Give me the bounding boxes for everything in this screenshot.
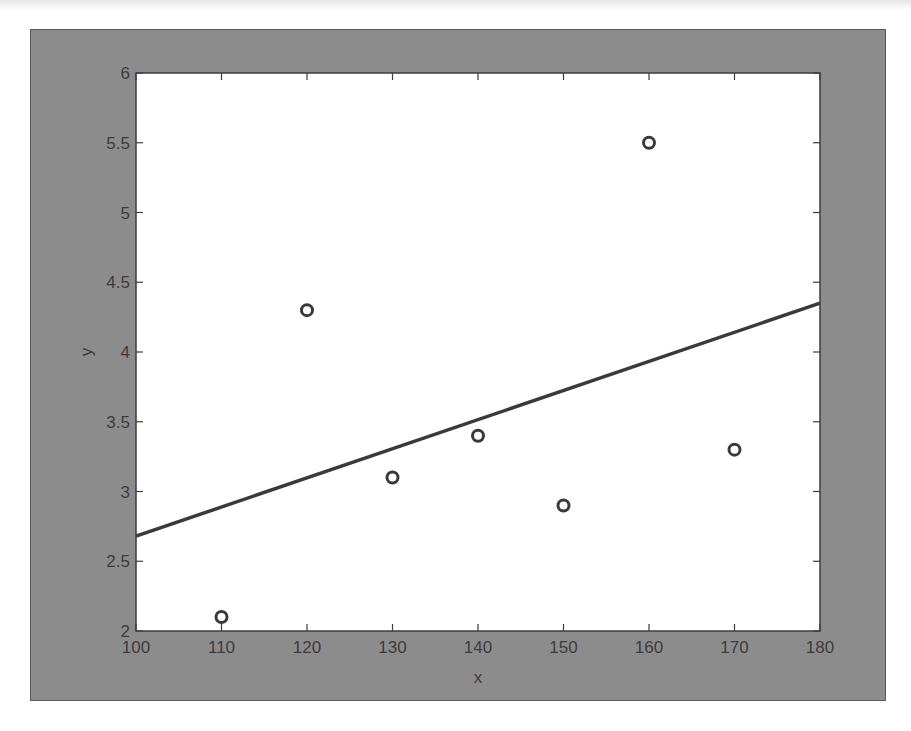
y-tick-label: 3.5 bbox=[106, 413, 130, 432]
scatter-plot: 100110120130140150160170180 22.533.544.5… bbox=[0, 0, 911, 731]
x-tick-labels: 100110120130140150160170180 bbox=[122, 638, 834, 657]
axes-area bbox=[136, 73, 820, 631]
y-tick-label: 2 bbox=[121, 622, 130, 641]
y-axis-label: y bbox=[77, 347, 96, 356]
y-tick-labels: 22.533.544.555.56 bbox=[106, 64, 130, 641]
x-tick-label: 150 bbox=[549, 638, 577, 657]
y-tick-label: 5.5 bbox=[106, 134, 130, 153]
y-tick-label: 4 bbox=[121, 343, 130, 362]
x-tick-label: 180 bbox=[806, 638, 834, 657]
x-tick-label: 170 bbox=[720, 638, 748, 657]
x-tick-label: 120 bbox=[293, 638, 321, 657]
y-tick-label: 3 bbox=[121, 483, 130, 502]
y-tick-label: 2.5 bbox=[106, 552, 130, 571]
x-tick-label: 110 bbox=[208, 638, 235, 657]
x-tick-label: 130 bbox=[378, 638, 406, 657]
x-tick-label: 160 bbox=[635, 638, 663, 657]
y-tick-label: 4.5 bbox=[106, 273, 130, 292]
x-axis-label: x bbox=[474, 668, 483, 687]
y-tick-label: 5 bbox=[121, 204, 130, 223]
x-tick-label: 140 bbox=[464, 638, 492, 657]
y-tick-label: 6 bbox=[121, 64, 130, 83]
